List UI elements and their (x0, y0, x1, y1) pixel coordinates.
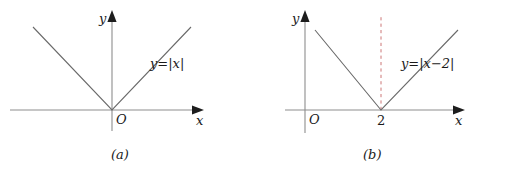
curve-equation-label: y=|x| (150, 57, 184, 70)
figure-container: y x O y=|x| (a) y x O 2 y=|x−2| (b) (0, 0, 505, 175)
panel-b-caption: (b) (363, 148, 381, 161)
curve-equation-label: y=|x−2| (401, 57, 455, 70)
x-tick-label-2: 2 (377, 114, 385, 127)
y-axis-label: y (292, 12, 299, 25)
origin-label: O (116, 113, 127, 126)
panel-a-caption: (a) (111, 148, 129, 161)
panel-a: y x O y=|x| (a) (0, 0, 253, 175)
y-axis-label: y (99, 12, 106, 25)
y-axis-arrowhead (107, 10, 116, 22)
y-axis-arrowhead (300, 10, 309, 22)
x-axis-label: x (455, 114, 462, 127)
origin-label: O (309, 113, 320, 126)
x-axis-label: x (196, 114, 203, 127)
panel-b: y x O 2 y=|x−2| (b) (253, 0, 505, 175)
